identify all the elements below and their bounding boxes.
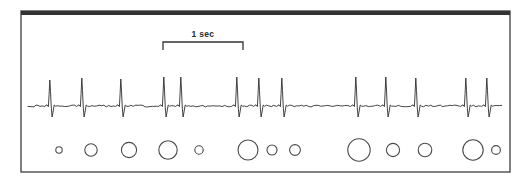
figure-background [0, 0, 531, 181]
figure-canvas: 1 sec [0, 0, 531, 181]
figure-root: 1 sec [0, 0, 531, 181]
scale-bar-label: 1 sec [192, 29, 215, 39]
